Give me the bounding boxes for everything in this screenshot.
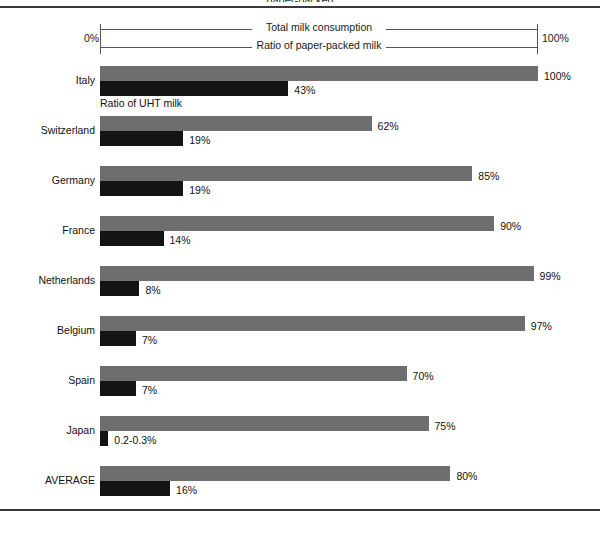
bar-row: Japan75%0.2-0.3% <box>0 416 600 446</box>
bar-value-total: 85% <box>478 170 499 182</box>
bar-value-uht: 14% <box>170 234 191 246</box>
bar-total-milk <box>100 216 494 231</box>
bar-total-milk <box>100 66 538 81</box>
bar-row: Switzerland62%19% <box>0 116 600 146</box>
bar-row: Belgium97%7% <box>0 316 600 346</box>
bar-value-total: 62% <box>378 120 399 132</box>
bar-row: Italy100%43% <box>0 66 600 96</box>
bar-value-total: 99% <box>540 270 561 282</box>
bar-uht-milk <box>100 131 183 146</box>
uht-inline-note: Ratio of UHT milk <box>100 97 182 109</box>
bar-row-label: Japan <box>0 424 95 436</box>
bar-uht-milk <box>100 181 183 196</box>
bar-row-label: Italy <box>0 74 95 86</box>
bracket-total-milk-consumption: Total milk consumption <box>100 23 538 36</box>
bar-total-milk <box>100 466 450 481</box>
bar-value-uht: 43% <box>294 84 315 96</box>
bar-value-total: 97% <box>531 320 552 332</box>
bar-value-total: 90% <box>500 220 521 232</box>
bar-uht-milk <box>100 231 164 246</box>
chart-plot-area: Total milk consumption Ratio of paper-pa… <box>0 0 600 539</box>
bar-row-label: Netherlands <box>0 274 95 286</box>
bar-row-label: France <box>0 224 95 236</box>
bar-value-total: 80% <box>456 470 477 482</box>
bar-uht-milk <box>100 381 136 396</box>
bracket-ratio-paper-packed-milk: Ratio of paper-packed milk <box>100 41 538 54</box>
bar-total-milk <box>100 116 372 131</box>
bar-total-milk <box>100 266 534 281</box>
bar-row-label: AVERAGE <box>0 474 95 486</box>
axis-tick-label-min: 0% <box>84 32 99 44</box>
bar-value-total: 100% <box>544 70 571 82</box>
bar-uht-milk <box>100 431 108 446</box>
bar-row-label: Germany <box>0 174 95 186</box>
bar-value-uht: 19% <box>189 134 210 146</box>
bar-row: France90%14% <box>0 216 600 246</box>
bar-uht-milk <box>100 331 136 346</box>
bar-total-milk <box>100 166 472 181</box>
bar-value-uht: 0.2-0.3% <box>114 434 156 446</box>
bar-value-uht: 7% <box>142 334 157 346</box>
bar-uht-milk <box>100 481 170 496</box>
bar-value-total: 75% <box>435 420 456 432</box>
bar-row: AVERAGE80%16% <box>0 466 600 496</box>
bar-value-total: 70% <box>413 370 434 382</box>
bar-row: Spain70%7% <box>0 366 600 396</box>
bar-row: Germany85%19% <box>0 166 600 196</box>
bar-value-uht: 8% <box>145 284 160 296</box>
bar-value-uht: 16% <box>176 484 197 496</box>
axis-tick-label-max: 100% <box>542 32 569 44</box>
bar-total-milk <box>100 416 429 431</box>
axis-bracket-group: Total milk consumption Ratio of paper-pa… <box>100 24 538 54</box>
bracket-label-total-milk-consumption: Total milk consumption <box>100 21 538 33</box>
bar-uht-milk <box>100 81 288 96</box>
bar-value-uht: 7% <box>142 384 157 396</box>
bar-row-label: Belgium <box>0 324 95 336</box>
bar-row-label: Switzerland <box>0 124 95 136</box>
bar-total-milk <box>100 366 407 381</box>
bar-total-milk <box>100 316 525 331</box>
bar-row: Netherlands99%8% <box>0 266 600 296</box>
bar-row-label: Spain <box>0 374 95 386</box>
bar-value-uht: 19% <box>189 184 210 196</box>
bar-uht-milk <box>100 281 139 296</box>
bracket-label-ratio-paper-packed-milk: Ratio of paper-packed milk <box>100 39 538 51</box>
